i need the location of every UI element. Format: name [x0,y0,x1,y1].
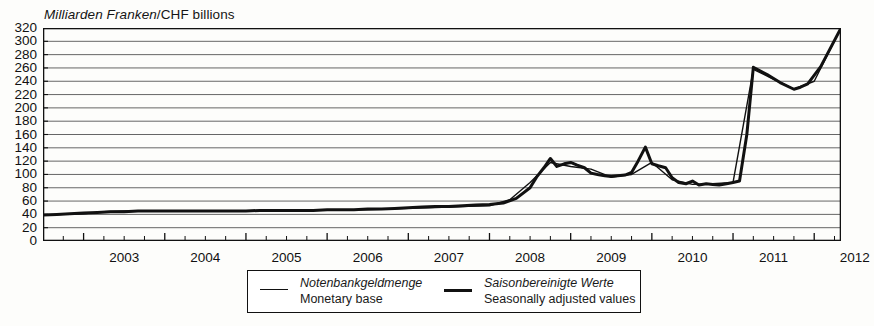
y-axis-unit-en: /CHF billions [157,7,235,22]
gridlines [43,28,841,228]
legend-label-de-seasonally-adjusted: Saisonbereinigte Werte [484,276,636,292]
y-axis-tick-label: 240 [0,74,37,88]
x-axis-tick-label: 2005 [257,250,317,265]
x-axis-tick-label: 2010 [662,250,722,265]
y-axis-tick-label: 120 [0,154,37,168]
x-axis-tick-label: 2009 [581,250,641,265]
y-axis-tick-label: 300 [0,34,37,48]
y-axis-tick-label: 260 [0,61,37,75]
y-axis-unit-title: Milliarden Franken/CHF billions [44,7,235,22]
y-axis-tick-label: 0 [0,234,37,248]
chart-svg [43,28,841,241]
legend-entry-seasonally-adjusted: Saisonbereinigte Werte Seasonally adjust… [444,276,636,307]
x-axis-tick-label: 2006 [338,250,398,265]
y-axis-tick-label: 40 [0,207,37,221]
y-axis-tick-label: 80 [0,181,37,195]
x-axis-tick-label: 2003 [94,250,154,265]
x-axis-tick-label: 2007 [419,250,479,265]
y-axis-tick-label: 200 [0,101,37,115]
x-axis-tick-label: 2012 [825,250,874,265]
x-axis-tick-label: 2004 [175,250,235,265]
y-axis-tick-label: 180 [0,114,37,128]
legend-label-en-monetary-base: Monetary base [300,292,422,308]
x-axis-tick-label: 2008 [500,250,560,265]
y-axis-tick-label: 20 [0,221,37,235]
legend-swatch-thick-line [444,289,472,292]
y-axis-tick-label: 140 [0,141,37,155]
y-axis-tick-label: 160 [0,128,37,142]
legend-swatch-thin-line [260,289,288,290]
y-axis-tick-label: 60 [0,194,37,208]
y-axis-tick-label: 320 [0,21,37,35]
legend-label-en-seasonally-adjusted: Seasonally adjusted values [484,292,636,308]
x-axis-tick-label: 2011 [744,250,804,265]
y-axis-tick-label: 100 [0,167,37,181]
plot-area [43,28,841,241]
legend-label-de-monetary-base: Notenbankgeldmenge [300,276,422,292]
y-axis-tick-label: 280 [0,48,37,62]
y-axis-unit-de: Milliarden Franken [44,7,157,22]
legend-entry-monetary-base: Notenbankgeldmenge Monetary base [260,276,422,307]
y-axis-tick-label: 220 [0,88,37,102]
chart-legend: Notenbankgeldmenge Monetary base Saisonb… [247,270,641,313]
